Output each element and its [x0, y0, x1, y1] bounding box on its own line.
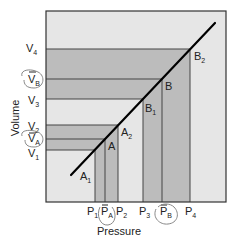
x-axis-title: Pressure [97, 225, 141, 237]
y-tick-v1: V1 [28, 147, 39, 161]
x-tick-pa: PA [101, 205, 113, 219]
x-tick-p3: P3 [139, 205, 150, 219]
y-tick-vb: VB [28, 73, 40, 87]
y-tick-v4: V4 [26, 42, 37, 56]
x-tick-p4: P4 [185, 205, 196, 219]
x-tick-p1: P1 [87, 205, 98, 219]
band-a-vertical [95, 150, 118, 202]
point-label-a: A [108, 140, 116, 152]
x-tick-pb: PB [160, 205, 172, 219]
y-tick-va: VA [28, 132, 40, 146]
band-b-vertical [143, 99, 190, 202]
y-tick-v3: V3 [28, 94, 39, 108]
point-label-b: B [165, 80, 172, 92]
y-axis-title: Volume [9, 100, 21, 137]
x-tick-p2: P2 [116, 205, 127, 219]
volume-pressure-diagram: A1 A A2 B1 B B2 V4 VB V3 V2 VA V1 Volume… [0, 0, 238, 247]
